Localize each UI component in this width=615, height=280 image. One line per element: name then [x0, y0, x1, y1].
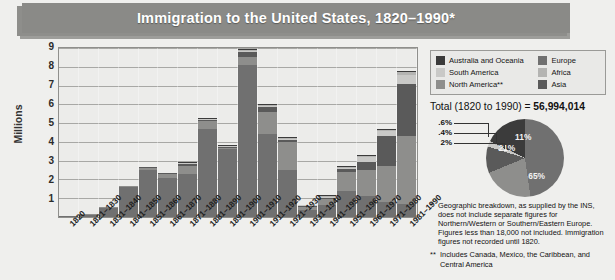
bar-column — [59, 48, 79, 217]
footnote-1-text: Geographic breakdown, as supplied by the… — [430, 201, 610, 246]
y-tick: 1 — [34, 194, 54, 204]
pie-leader-tick — [504, 143, 505, 149]
legend-column-left: Australia and OceaniaSouth AmericaNorth … — [436, 55, 538, 90]
bar-segment — [397, 75, 416, 84]
pie-leader-tick — [488, 123, 489, 137]
bar-chart-plot-area — [58, 47, 418, 218]
legend-item: Australia and Oceania — [436, 55, 538, 66]
legend-item: Asia — [538, 79, 600, 90]
bar-column — [298, 48, 318, 217]
bar-column — [139, 48, 159, 217]
bar-column — [238, 48, 258, 217]
y-tick: 3 — [34, 156, 54, 166]
footnote-2-marker: ** — [430, 250, 436, 259]
total-line: Total (1820 to 1990) = 56,994,014 — [430, 101, 610, 112]
footnote-2-text: Includes Canada, Mexico, the Caribbean, … — [430, 250, 610, 268]
x-label-cell: 1901–1910 — [238, 220, 258, 278]
x-label-cell: 1971–1980 — [378, 220, 398, 278]
total-value: 56,994,014 — [533, 101, 585, 112]
legend: Australia and OceaniaSouth AmericaNorth … — [430, 50, 606, 95]
footnote-1: * Geographic breakdown, as supplied by t… — [430, 201, 610, 246]
bar-segment — [178, 166, 197, 174]
x-label-cell: 1821–1830 — [78, 220, 98, 278]
x-label-cell: 1921–1930 — [278, 220, 298, 278]
legend-label: South America — [449, 68, 498, 77]
bar-segment — [397, 136, 416, 204]
title-banner: Immigration to the United States, 1820–1… — [14, 3, 570, 39]
bar-column — [318, 48, 338, 217]
bar-column — [99, 48, 119, 217]
bar-column — [158, 48, 178, 217]
y-axis-ticks: 987654321 — [34, 42, 54, 222]
bar-segment — [397, 84, 416, 137]
pie-slice-label: 11% — [515, 132, 531, 142]
x-label-cell: 1861–1870 — [158, 220, 178, 278]
legend-swatch — [436, 80, 445, 89]
x-axis-labels: 18201821–18301831–18401841–18501851–1860… — [58, 220, 418, 278]
bar-column — [198, 48, 218, 217]
x-label-cell: 1951–1960 — [338, 220, 358, 278]
legend-swatch — [436, 56, 445, 65]
bar-column — [337, 48, 357, 217]
page-title: Immigration to the United States, 1820–1… — [137, 10, 455, 26]
pie-callout-label: 2% — [428, 138, 452, 147]
legend-swatch — [538, 80, 547, 89]
x-label-cell: 1871–1880 — [178, 220, 198, 278]
bar-segment — [278, 142, 297, 170]
x-label-cell: 1941–1950 — [318, 220, 338, 278]
footnote-1-marker: * — [430, 201, 433, 210]
pie-slice-label: 21% — [498, 143, 515, 153]
legend-item: Europe — [538, 55, 600, 66]
bar-column — [119, 48, 139, 217]
x-label-cell: 1831–1840 — [98, 220, 118, 278]
x-label-cell: 1911–1920 — [258, 220, 278, 278]
legend-label: Australia and Oceania — [449, 56, 524, 65]
bar-column — [258, 48, 278, 217]
pie-callout-label: .4% — [428, 128, 452, 137]
bar-series-container — [59, 48, 417, 217]
footnotes: * Geographic breakdown, as supplied by t… — [430, 201, 610, 273]
y-tick: 6 — [34, 99, 54, 109]
legend-label: Europe — [551, 56, 576, 65]
legend-item: South America — [436, 67, 538, 78]
legend-item: North America** — [436, 79, 538, 90]
pie-leader-line — [454, 143, 504, 144]
bar-segment — [377, 136, 396, 166]
bar-segment — [258, 112, 277, 135]
pie-leader-line — [454, 133, 496, 134]
pie-callout-label: .6% — [428, 118, 452, 127]
legend-column-right: EuropeAfricaAsia — [538, 55, 600, 90]
bar-segment — [198, 121, 217, 129]
total-prefix: Total (1820 to 1990) = — [430, 101, 533, 112]
y-tick: 4 — [34, 137, 54, 147]
bar-segment — [238, 57, 257, 65]
pie-leader-tick — [496, 133, 497, 143]
bar-segment — [337, 172, 356, 191]
pie-chart: 65%21%11%.6%.4%2% — [428, 118, 608, 200]
bar-segment — [357, 162, 376, 170]
x-label-cell: 1851–1860 — [138, 220, 158, 278]
legend-swatch — [436, 68, 445, 77]
y-tick: 8 — [34, 61, 54, 71]
bar-column — [278, 48, 298, 217]
x-label-cell: 1891–1900 — [218, 220, 238, 278]
x-label-cell: 1981–1990 — [398, 220, 418, 278]
legend-label: Africa — [551, 68, 570, 77]
x-label-cell: 1881–1890 — [198, 220, 218, 278]
bar-column — [357, 48, 377, 217]
y-axis-label: Millions — [12, 89, 24, 159]
y-tick: 7 — [34, 80, 54, 90]
x-label-cell: 1841–1850 — [118, 220, 138, 278]
bar-column — [79, 48, 99, 217]
y-tick: 2 — [34, 175, 54, 185]
chart-infographic: Immigration to the United States, 1820–1… — [0, 0, 615, 280]
bar-column — [397, 48, 417, 217]
legend-item: Africa — [538, 67, 600, 78]
bar-column — [178, 48, 198, 217]
legend-label: Asia — [551, 80, 566, 89]
footnote-2: ** Includes Canada, Mexico, the Caribbea… — [430, 250, 610, 268]
banner-front-layer: Immigration to the United States, 1820–1… — [22, 3, 570, 33]
bar-column — [218, 48, 238, 217]
pie-circle — [486, 119, 564, 197]
x-label-cell: 1961–1970 — [358, 220, 378, 278]
